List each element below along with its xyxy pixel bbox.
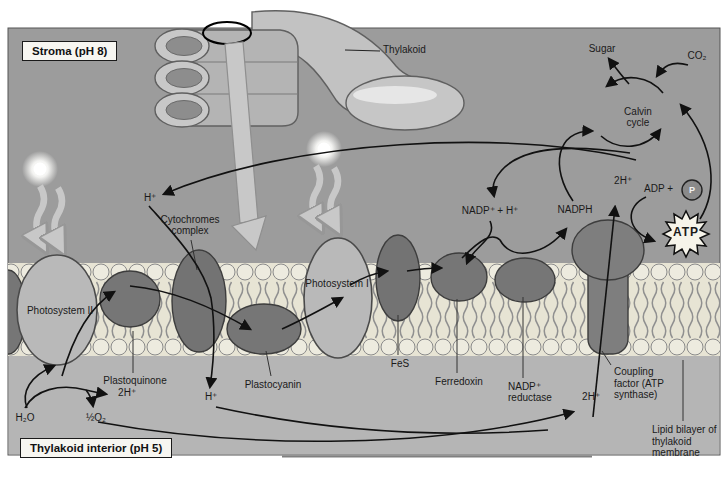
- cytochromes-complex-label: Cytochromes complex: [161, 214, 220, 236]
- photosystem-i-label: Photosystem I: [305, 278, 368, 289]
- nadp-reductase-label: NADP⁺ reductase: [508, 381, 552, 403]
- calvin-line1: Calvin: [624, 106, 652, 117]
- cytochromes-complex-shape: [172, 250, 226, 352]
- half-o2-label: ½O₂: [86, 412, 106, 423]
- nadph-label: NADPH: [557, 204, 592, 215]
- photosystem-i-shape: [304, 238, 372, 358]
- calvin-cycle-label: Calvin cycle: [624, 106, 652, 128]
- diagram-canvas: [0, 0, 728, 478]
- reductase-line1: NADP⁺: [508, 381, 552, 392]
- h-plus-interior-label: H⁺: [205, 391, 217, 402]
- co2-label: CO₂: [688, 50, 707, 61]
- h-plus-stroma-label: H⁺: [144, 192, 156, 203]
- two-h-interior-label: 2H⁺: [582, 391, 600, 402]
- plastoquinone-label: Plastoquinone: [103, 375, 166, 386]
- h2o-label: H₂O: [16, 412, 35, 423]
- two-h-stroma-label: 2H⁺: [614, 175, 632, 186]
- plastoquinone-2h-label: 2H⁺: [118, 387, 136, 398]
- ferredoxin-label: Ferredoxin: [435, 376, 483, 387]
- phosphate-label: P: [689, 185, 695, 196]
- sugar-label: Sugar: [589, 43, 616, 54]
- atp-label: ATP: [673, 227, 699, 238]
- ferredoxin-shape: [431, 253, 487, 301]
- lipid-bilayer-label: Lipid bilayer of thylakoid membrane: [652, 424, 724, 459]
- thylakoid-label: Thylakoid: [383, 44, 426, 55]
- sun-burst-icon: [306, 131, 342, 167]
- reductase-line2: reductase: [508, 392, 552, 403]
- cytochromes-line2: complex: [161, 225, 220, 236]
- cytochromes-line1: Cytochromes: [161, 214, 220, 225]
- sun-burst-icon: [22, 151, 58, 187]
- plastocyanin-label: Plastocyanin: [245, 379, 302, 390]
- photosynthesis-diagram: Stroma (pH 8) Thylakoid interior (pH 5) …: [0, 0, 728, 478]
- adp-label: ADP +: [644, 183, 673, 194]
- photosystem-ii-label: Photosystem II: [27, 305, 93, 316]
- interior-label-box: Thylakoid interior (pH 5): [20, 438, 172, 458]
- stroma-label-box: Stroma (pH 8): [22, 41, 117, 61]
- fes-label: FeS: [391, 358, 409, 369]
- plastoquinone-shape: [100, 271, 160, 327]
- coupling-factor-label: Coupling factor (ATP synthase): [614, 366, 666, 401]
- calvin-line2: cycle: [624, 117, 652, 128]
- plastocyanin-shape: [227, 304, 301, 354]
- nadp-h-label: NADP⁺ + H⁺: [462, 205, 518, 216]
- nadp-reductase-shape: [495, 258, 555, 302]
- fes-shape: [376, 235, 420, 321]
